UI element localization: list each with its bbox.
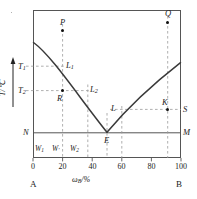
point-label-l: L	[111, 104, 116, 113]
end-label-a: A	[30, 180, 37, 189]
y-axis-arrow	[11, 57, 16, 107]
point-label-n: N	[23, 128, 29, 137]
x-axis-caption: ωB/%	[72, 176, 90, 185]
y-tick-t2-sub: 2	[23, 89, 26, 95]
horizontal-guide-lines	[26, 66, 181, 109]
end-label-b: B	[176, 180, 182, 189]
composition-label-w2: W2	[70, 145, 79, 153]
x-tick-20: 20	[54, 163, 71, 171]
composition-label-wprime: W′	[52, 145, 59, 153]
point-label-k: K	[162, 98, 168, 107]
liquidus-right-branch	[107, 63, 181, 133]
point-label-s: S	[183, 105, 187, 114]
w2-sub: 2	[76, 147, 79, 153]
point-label-e: E	[104, 136, 109, 145]
composition-label-w1: W1	[35, 145, 44, 153]
point-l1-sub: 1	[71, 64, 74, 70]
point-label-l2: L2	[90, 85, 98, 94]
x-tick-100: 100	[170, 163, 192, 171]
x-tick-60: 60	[113, 163, 130, 171]
phase-diagram-figure: T/℃ T1 T2 P Q L1 L2 L R K S N M E W1 W′ …	[0, 0, 197, 199]
x-caption-percent: /%	[81, 175, 90, 184]
point-label-p: P	[60, 18, 65, 27]
point-label-m: M	[183, 128, 190, 137]
x-tick-40: 40	[84, 163, 101, 171]
point-label-l1: L1	[66, 61, 74, 70]
y-axis-caption: T/℃	[0, 56, 7, 96]
x-axis-ticks	[33, 158, 181, 161]
wprime-sub: ′	[58, 147, 59, 153]
w1-sub: 1	[41, 147, 44, 153]
y-tick-label-t2: T2	[18, 86, 26, 95]
x-tick-0: 0	[25, 163, 41, 171]
y-tick-t1-sub: 1	[23, 65, 26, 71]
point-l2-sub: 2	[95, 88, 98, 94]
point-label-q: Q	[165, 9, 171, 18]
x-tick-80: 80	[143, 163, 160, 171]
y-tick-label-t1: T1	[18, 62, 26, 71]
point-label-r: R	[57, 94, 62, 103]
